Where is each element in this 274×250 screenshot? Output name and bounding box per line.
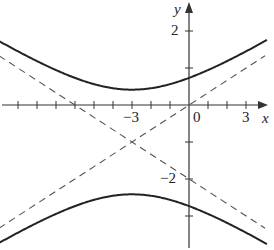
x-axis-label: x — [262, 111, 269, 126]
x-axis-arrow-icon — [258, 101, 268, 109]
tick-label-x-0: 0 — [193, 110, 201, 125]
hyperbola-plot — [0, 0, 274, 250]
tick-label-y-2: 2 — [171, 23, 179, 38]
series-group — [0, 40, 267, 244]
tick-label-x-3: 3 — [242, 110, 250, 125]
y-axis-label: y — [174, 2, 181, 17]
tick-label-x-neg3: −3 — [123, 110, 139, 125]
tick-label-y-neg2: −2 — [160, 171, 176, 186]
y-axis-arrow-icon — [185, 2, 193, 13]
